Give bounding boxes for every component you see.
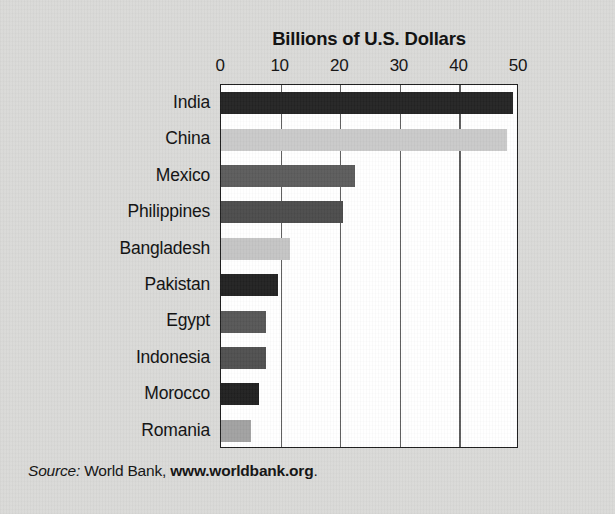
bar-mexico [221, 165, 355, 187]
bar-bangladesh [221, 238, 290, 260]
bar-row [221, 231, 517, 267]
bar-philippines [221, 201, 343, 223]
plot-area [220, 84, 518, 448]
category-label-romania: Romania [141, 412, 210, 448]
source-note: Source: World Bank, www.worldbank.org. [28, 462, 318, 480]
x-axis-tick-labels: 01020304050 [220, 56, 518, 80]
bar-row [221, 413, 517, 449]
remittances-bar-chart-figure: Billions of U.S. Dollars 01020304050 Ind… [0, 0, 615, 514]
bar-row [221, 158, 517, 194]
source-prefix: Source: [28, 462, 80, 479]
bar-china [221, 129, 507, 151]
category-label-pakistan: Pakistan [144, 266, 210, 302]
x-tick-label: 30 [390, 56, 408, 76]
category-label-philippines: Philippines [128, 193, 210, 229]
chart-title: Billions of U.S. Dollars [220, 28, 518, 50]
bar-indonesia [221, 347, 266, 369]
x-tick-label: 20 [330, 56, 348, 76]
bar-row [221, 340, 517, 376]
category-label-indonesia: Indonesia [136, 339, 210, 375]
x-tick-label: 50 [509, 56, 527, 76]
source-publisher: World Bank, [84, 462, 166, 479]
bar-row [221, 121, 517, 157]
bar-row [221, 194, 517, 230]
source-suffix: . [313, 462, 317, 479]
bar-morocco [221, 383, 259, 405]
bar-egypt [221, 311, 266, 333]
bar-row [221, 303, 517, 339]
bar-row [221, 376, 517, 412]
category-label-india: India [173, 84, 210, 120]
category-label-bangladesh: Bangladesh [120, 230, 210, 266]
bar-row [221, 85, 517, 121]
bar-romania [221, 420, 251, 442]
category-label-mexico: Mexico [156, 157, 210, 193]
bar-india [221, 92, 513, 114]
category-axis-labels: IndiaChinaMexicoPhilippinesBangladeshPak… [0, 84, 214, 448]
x-tick-label: 0 [215, 56, 224, 76]
x-tick-label: 40 [449, 56, 467, 76]
category-label-egypt: Egypt [166, 302, 210, 338]
bars-layer [221, 85, 517, 447]
bar-pakistan [221, 274, 278, 296]
x-tick-label: 10 [270, 56, 288, 76]
category-label-china: China [165, 120, 210, 156]
source-url: www.worldbank.org [170, 462, 313, 479]
bar-row [221, 267, 517, 303]
category-label-morocco: Morocco [144, 375, 210, 411]
